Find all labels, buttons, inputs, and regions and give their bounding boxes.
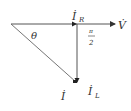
il-subscript: L [94,92,100,100]
ir-subscript: R [78,16,85,24]
phasor-diagram: İ R V̇ π 2 θ İ İ L [0,0,131,111]
total-current-label: İ [60,89,66,103]
il-label: İ [87,84,93,98]
right-angle-numerator: π [88,27,94,34]
total-current-vector [11,24,76,82]
vector-tip [73,80,77,83]
ir-label: İ [71,9,77,23]
theta-label: θ [31,30,37,41]
right-angle-denominator: 2 [88,39,94,47]
voltage-label: V̇ [118,19,127,32]
